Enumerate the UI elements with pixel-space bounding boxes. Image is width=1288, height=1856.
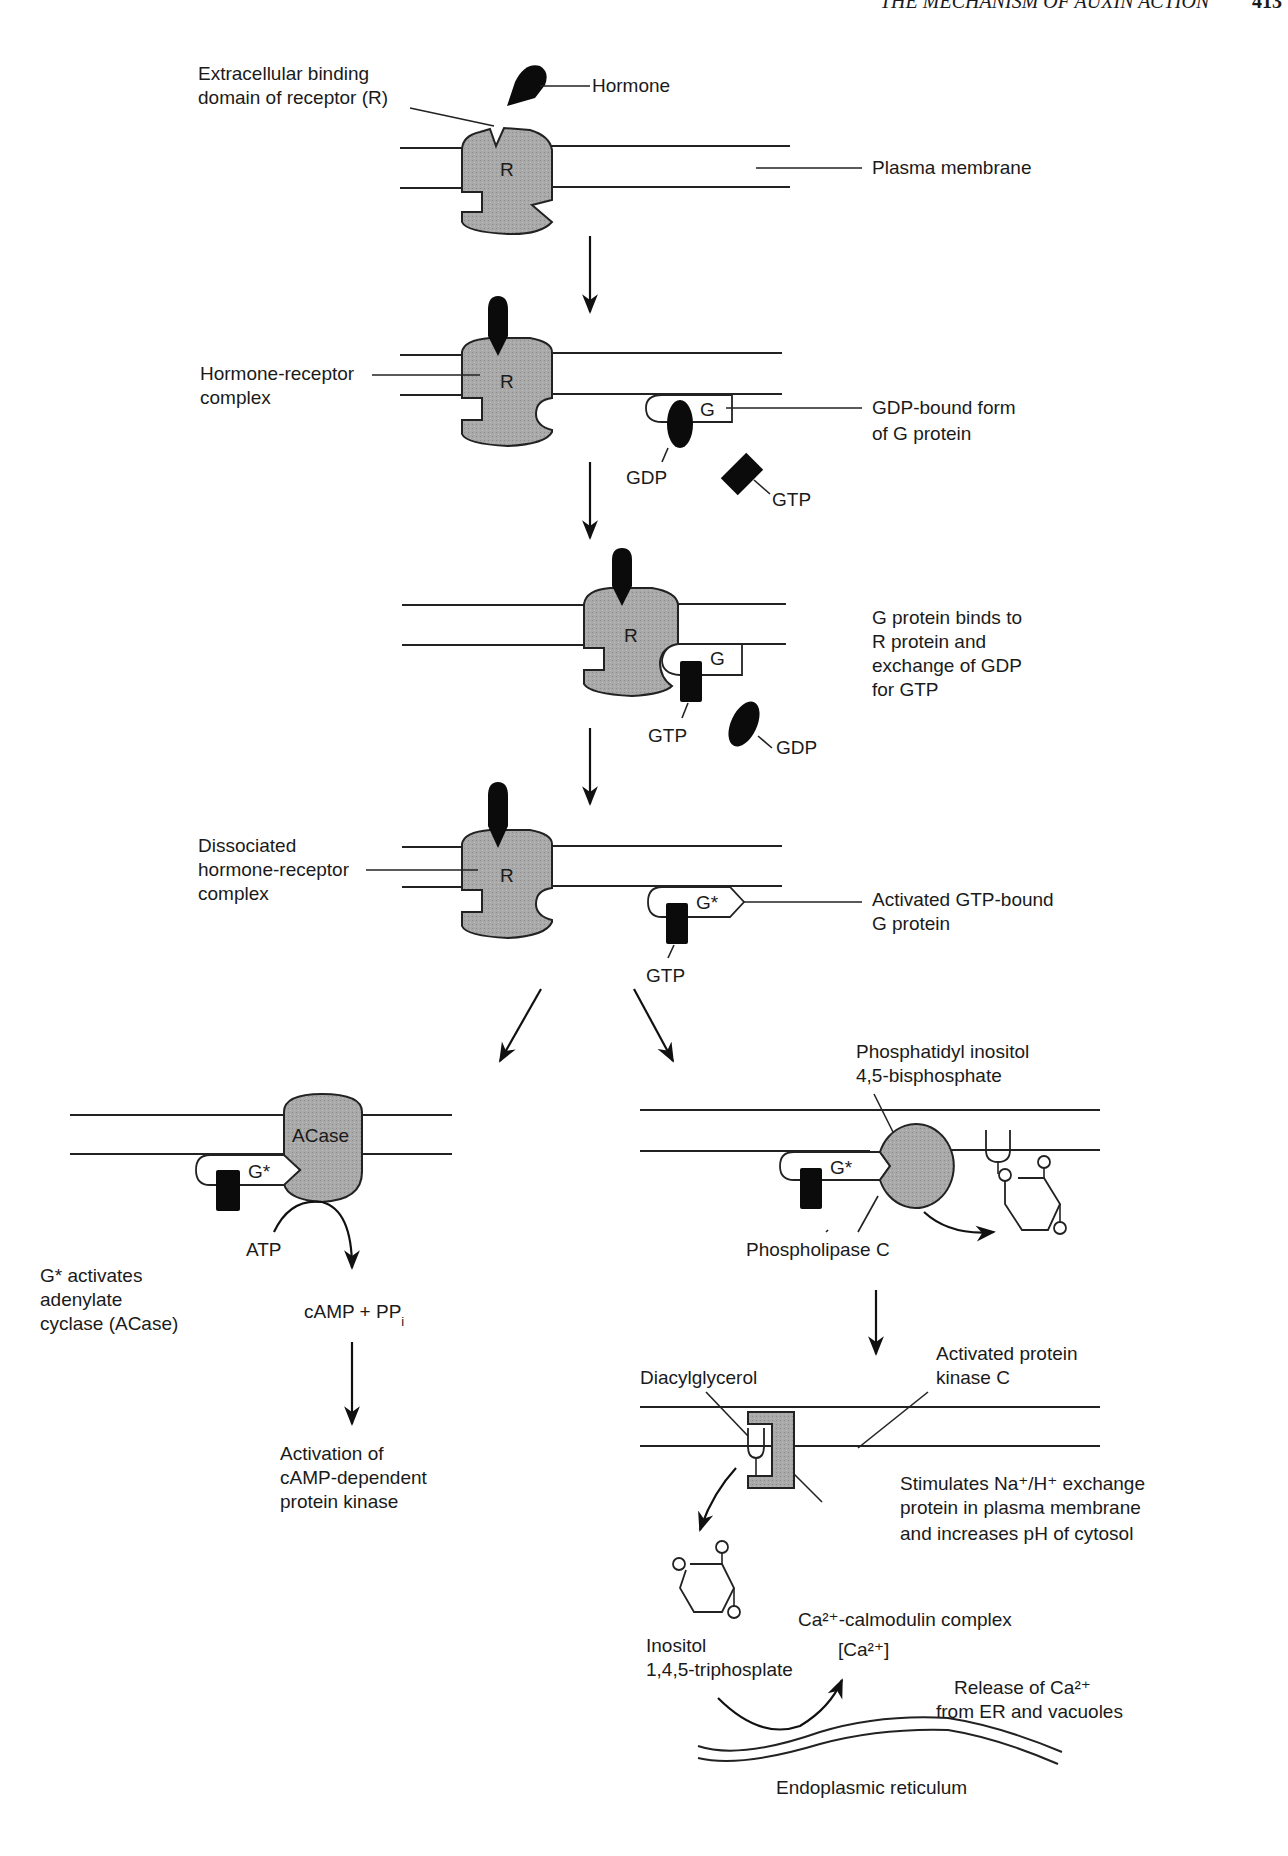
exchange-label-line1: Stimulates Na⁺/H⁺ exchange xyxy=(900,1473,1145,1494)
g-star-letter: G* xyxy=(696,892,719,913)
pip2-label-line1: Phosphatidyl inositol xyxy=(856,1041,1029,1062)
er-membrane-inner xyxy=(698,1730,1058,1764)
adenylate-cyclase-ACase xyxy=(284,1094,362,1202)
atp-to-camp-arrow xyxy=(274,1202,352,1268)
gtp-leader-line xyxy=(668,945,674,958)
step3-description-line4: for GTP xyxy=(872,679,939,700)
protein-kinase-c xyxy=(748,1412,794,1488)
hormone-label: Hormone xyxy=(592,75,670,96)
ca-concentration-label: [Ca²⁺] xyxy=(838,1639,889,1660)
arrow-to-phospholipase-branch xyxy=(634,989,673,1061)
binding-domain-leader-line xyxy=(410,108,494,126)
exchange-label-line3: and increases pH of cytosol xyxy=(900,1523,1133,1544)
exchange-leader-line xyxy=(794,1474,822,1502)
release-label-line2: from ER and vacuoles xyxy=(936,1701,1123,1722)
outcome-line1: Activation of xyxy=(280,1443,384,1464)
step-1-free-hormone: R Hormone Extracellular binding domain o… xyxy=(198,63,1031,234)
gtp-label: GTP xyxy=(646,965,685,986)
phosphate-group xyxy=(999,1169,1011,1181)
gdp-molecule xyxy=(667,400,693,448)
gdp-leader-line xyxy=(662,448,668,462)
plc-label: Phospholipase C xyxy=(746,1239,890,1260)
gdp-form-label-line1: GDP-bound form xyxy=(872,397,1016,418)
plc-leader-line xyxy=(858,1196,878,1232)
g-letter: G xyxy=(700,399,715,420)
activated-label-line1: Activated GTP-bound xyxy=(872,889,1054,910)
er-label: Endoplasmic reticulum xyxy=(776,1777,967,1798)
exchange-label-line2: protein in plasma membrane xyxy=(900,1497,1141,1518)
camp-product-label: cAMP + PPi xyxy=(304,1301,404,1329)
step3-description-line1: G protein binds to xyxy=(872,607,1022,628)
receptor-R xyxy=(462,128,552,234)
dissociated-label-line2: hormone-receptor xyxy=(198,859,350,880)
step-3-gdp-gtp-exchange: R G GTP GDP G protein binds to R protein… xyxy=(402,548,1022,758)
gtp-bound-molecule xyxy=(680,661,702,702)
dag-label: Diacylglycerol xyxy=(640,1367,757,1388)
activated-label-line2: G protein xyxy=(872,913,950,934)
step3-description-line2: R protein and xyxy=(872,631,986,652)
calcium-release-arrow xyxy=(718,1680,842,1730)
phospholipase-c-branch: Phosphatidyl inositol 4,5-bisphosphate G… xyxy=(640,1041,1145,1798)
pip2-lipid-tail xyxy=(986,1130,1010,1162)
receptor-letter: R xyxy=(624,625,638,646)
gtp-bound-molecule xyxy=(800,1168,822,1209)
running-title: THE MECHANISM OF AUXIN ACTION xyxy=(880,0,1211,12)
g-letter: G xyxy=(710,648,725,669)
pkc-leader-line xyxy=(858,1392,928,1448)
left-description-line1: G* activates xyxy=(40,1265,142,1286)
step-2-hormone-receptor-complex: R Hormone-receptor complex G GDP GDP-bou… xyxy=(200,296,1016,510)
outcome-line3: protein kinase xyxy=(280,1491,398,1512)
release-label-line1: Release of Ca²⁺ xyxy=(954,1677,1091,1698)
receptor-letter: R xyxy=(500,865,514,886)
running-header: THE MECHANISM OF AUXIN ACTION 413 xyxy=(880,0,1282,12)
adenylate-cyclase-branch: ACase G* ATP G* activates adenylate cycl… xyxy=(40,1094,452,1512)
phosphate-group xyxy=(673,1558,685,1570)
g-star-letter: G* xyxy=(248,1161,271,1182)
pkc-label-line1: Activated protein xyxy=(936,1343,1078,1364)
gtp-bound-molecule xyxy=(216,1170,240,1211)
acase-label: ACase xyxy=(292,1125,349,1146)
gdp-leader-line xyxy=(758,736,772,748)
inositol-ring xyxy=(1005,1178,1060,1230)
phosphate-group xyxy=(1054,1222,1066,1234)
ip3-release-arrow xyxy=(700,1468,736,1530)
atp-label: ATP xyxy=(246,1239,282,1260)
phosphate-group xyxy=(728,1606,740,1618)
gdp-form-label-line2: of G protein xyxy=(872,423,971,444)
gtp-bound-molecule xyxy=(666,903,688,944)
outcome-line2: cAMP-dependent xyxy=(280,1467,428,1488)
gtp-leader-line xyxy=(682,703,688,718)
gtp-label: GTP xyxy=(648,725,687,746)
gdp-released-molecule xyxy=(722,697,766,751)
g-star-letter: G* xyxy=(830,1157,853,1178)
dag-leader-line xyxy=(706,1392,748,1436)
step-4-dissociation: R Dissociated hormone-receptor complex G… xyxy=(198,782,1054,986)
dag-lipid-tails xyxy=(748,1428,764,1458)
phospholipase-c xyxy=(880,1124,954,1208)
receptor-R xyxy=(462,338,552,446)
receptor-letter: R xyxy=(500,371,514,392)
ip3-label-line2: 1,4,5-triphosplate xyxy=(646,1659,793,1680)
dissociated-label-line3: complex xyxy=(198,883,269,904)
hydrolysis-arrow xyxy=(924,1212,994,1233)
page-number: 413 xyxy=(1252,0,1282,12)
complex-label-line1: Hormone-receptor xyxy=(200,363,355,384)
arrow-to-adenylate-cyclase-branch xyxy=(500,989,541,1061)
phosphate-group xyxy=(1038,1156,1050,1168)
left-description-line3: cyclase (ACase) xyxy=(40,1313,178,1334)
gdp-label: GDP xyxy=(626,467,667,488)
gtp-label: GTP xyxy=(772,489,811,510)
dissociated-label-line1: Dissociated xyxy=(198,835,296,856)
plasma-membrane-label: Plasma membrane xyxy=(872,157,1031,178)
gtp-leader-line xyxy=(754,480,770,494)
left-description-line2: adenylate xyxy=(40,1289,122,1310)
binding-domain-label-line2: domain of receptor (R) xyxy=(198,87,388,108)
step3-description-line3: exchange of GDP xyxy=(872,655,1022,676)
receptor-letter: R xyxy=(500,159,514,180)
inositol-triphosphate-ring xyxy=(680,1564,734,1612)
gdp-label: GDP xyxy=(776,737,817,758)
gtp-molecule xyxy=(721,453,763,495)
ip3-label-line1: Inositol xyxy=(646,1635,706,1656)
pip2-label-line2: 4,5-bisphosphate xyxy=(856,1065,1002,1086)
complex-label-line2: complex xyxy=(200,387,271,408)
